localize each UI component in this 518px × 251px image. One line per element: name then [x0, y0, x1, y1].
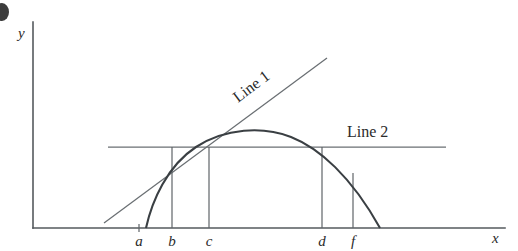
tick-label-d: d	[318, 233, 326, 249]
corner-bullet-icon	[0, 3, 9, 21]
plot-svg: y x a b c d f Line 1 Line 2	[0, 0, 518, 251]
y-axis-label: y	[16, 25, 25, 41]
tick-label-c: c	[206, 233, 213, 249]
line-2-label: Line 2	[347, 123, 388, 140]
concave-curve	[146, 130, 380, 228]
tick-label-b: b	[168, 233, 176, 249]
line-1-label: Line 1	[230, 67, 273, 105]
tick-label-f: f	[351, 233, 357, 249]
line-1-segment	[104, 58, 327, 223]
tick-label-a: a	[135, 233, 143, 249]
figure-canvas: y x a b c d f Line 1 Line 2	[0, 0, 518, 251]
x-axis-label: x	[491, 230, 499, 246]
